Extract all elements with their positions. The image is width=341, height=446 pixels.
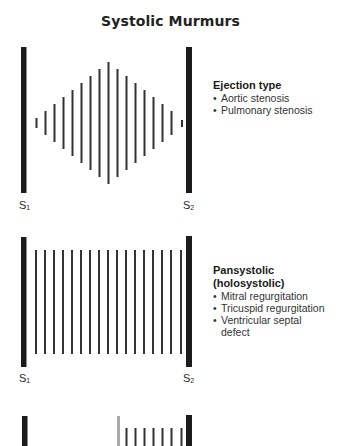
ejection-bars [21,47,192,193]
list-item: Aortic stenosis [213,92,313,104]
list-item: Mitral regurgitation [213,290,333,302]
ejection-heading: Ejection type [213,79,313,92]
ejection-description: Ejection type Aortic stenosis Pulmonary … [213,79,313,116]
s2-bar [186,47,192,193]
ejection-causes-list: Aortic stenosis Pulmonary stenosis [213,92,313,116]
s2-label: S2 [183,372,194,384]
pansystolic-bars [21,236,192,367]
s1-bar [21,47,27,193]
s1-label: S1 [19,372,30,384]
late-systolic-bars [22,415,192,446]
s2-bar [186,415,192,446]
pansystolic-heading-line2: (holosystolic) [213,277,333,290]
list-item: Tricuspid regurgitation [213,302,333,314]
s2-bar [186,236,192,367]
list-item: Ventricular septal defect [213,314,311,338]
ejection-murmur-diagram [0,0,341,446]
s1-bar [22,416,28,446]
s1-label: S1 [19,199,30,211]
s2-label: S2 [183,199,194,211]
pansystolic-description: Pansystolic (holosystolic) Mitral regurg… [213,264,333,338]
list-item: Pulmonary stenosis [213,104,313,116]
s1-bar [21,237,27,367]
pansystolic-causes-list: Mitral regurgitation Tricuspid regurgita… [213,290,333,338]
click-bar [117,416,120,446]
pansystolic-heading-line1: Pansystolic [213,264,333,277]
